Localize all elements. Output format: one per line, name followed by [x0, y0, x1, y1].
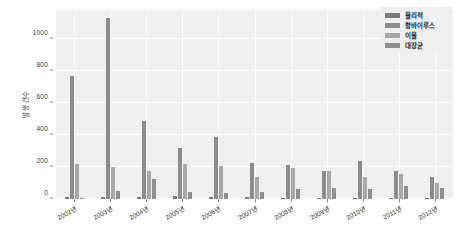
bar: [440, 188, 444, 199]
bar: [116, 191, 120, 199]
bar: [152, 179, 156, 199]
legend-swatch: [385, 13, 400, 18]
x-axis-tick-label: 2007년: [236, 203, 259, 222]
y-axis-tick-mark: [50, 133, 53, 134]
bar: [142, 121, 146, 199]
bar: [147, 171, 151, 199]
legend-swatch: [385, 23, 400, 28]
bar: [178, 148, 182, 199]
x-axis-tick-label: 2012년: [416, 203, 439, 222]
bar-group: [273, 165, 309, 199]
y-axis-tick-label: 0: [44, 189, 48, 196]
bar-group: [381, 171, 417, 200]
bar-group: [309, 171, 345, 200]
x-axis-tick-label: 2003년: [91, 203, 114, 222]
x-axis-tick-label: 2008년: [272, 203, 295, 222]
bar: [399, 174, 403, 199]
legend-swatch: [385, 33, 400, 38]
x-axis-tick-mark: [399, 199, 400, 202]
bar: [286, 165, 290, 199]
x-axis-tick-mark: [74, 199, 75, 202]
x-axis-tick-mark: [182, 199, 183, 202]
x-axis: 2002년2003년2004년2005년2006년2007년2008년2009년…: [56, 199, 453, 233]
legend-label: 이물: [405, 30, 417, 40]
x-axis-tick-label: 2011년: [380, 203, 403, 221]
x-axis-tick-mark: [435, 199, 436, 202]
bar: [368, 189, 372, 199]
legend-item[interactable]: 물리적: [385, 10, 449, 20]
y-axis-tick-mark: [50, 69, 53, 70]
x-axis-tick-mark: [255, 199, 256, 202]
x-axis-tick-label: 2009년: [308, 203, 331, 222]
bar: [327, 171, 331, 199]
legend-item[interactable]: 이물: [385, 30, 449, 40]
y-axis-tick-mark: [50, 165, 53, 166]
bar-group: [164, 148, 200, 199]
legend-label: 대장균: [405, 40, 423, 50]
y-axis-tick-mark: [50, 101, 53, 102]
y-axis-tick-label: 800: [37, 60, 48, 67]
y-axis-tick-mark: [50, 198, 53, 199]
y-axis-tick-label: 600: [37, 92, 48, 99]
bar: [111, 167, 115, 199]
y-axis-tick-label: 1000: [33, 28, 48, 35]
bar: [75, 164, 79, 199]
bar-group: [128, 121, 164, 199]
bar: [363, 177, 367, 199]
legend-label: 항바이루스: [405, 20, 435, 30]
bar: [430, 177, 434, 199]
bar: [404, 186, 408, 199]
bar: [296, 189, 300, 199]
y-axis-tick-label: 200: [37, 156, 48, 163]
x-axis-tick-mark: [363, 199, 364, 202]
x-axis-tick-mark: [110, 199, 111, 202]
legend-item[interactable]: 항바이루스: [385, 20, 449, 30]
x-axis-tick-label: 2005년: [163, 203, 186, 222]
bar-group: [200, 137, 236, 199]
bar: [394, 171, 398, 200]
legend-label: 물리적: [405, 10, 423, 20]
bar: [214, 137, 218, 199]
y-axis-tick-mark: [50, 37, 53, 38]
x-axis-tick-mark: [146, 199, 147, 202]
bar: [106, 18, 110, 199]
bar-group: [417, 177, 453, 199]
bar-group: [236, 163, 272, 199]
bar: [70, 76, 74, 199]
bar: [332, 188, 336, 199]
bar-chart-figure: 02004006008001000 발생 건수 2002년2003년2004년2…: [0, 0, 469, 233]
chart-legend: 물리적항바이루스이물대장균: [381, 7, 451, 53]
x-axis-tick-label: 2004년: [127, 203, 150, 222]
bar: [255, 177, 259, 199]
bar: [291, 168, 295, 199]
legend-swatch: [385, 43, 400, 48]
bar: [188, 192, 192, 199]
legend-item[interactable]: 대장균: [385, 40, 449, 50]
bar-group: [345, 161, 381, 199]
bar: [183, 164, 187, 199]
x-axis-tick-label: 2002년: [55, 203, 78, 222]
y-axis-label: 발생 건수: [20, 90, 30, 117]
bar-group: [56, 76, 92, 199]
y-axis-tick-label: 400: [37, 124, 48, 131]
x-axis-tick-label: 2010년: [344, 203, 367, 222]
bar-group: [92, 18, 128, 199]
bar: [260, 192, 264, 199]
bar: [322, 171, 326, 200]
bar: [250, 163, 254, 199]
bar: [435, 183, 439, 199]
bar: [219, 166, 223, 199]
x-axis-tick-mark: [327, 199, 328, 202]
x-axis-tick-label: 2006년: [199, 203, 222, 222]
bar: [358, 161, 362, 199]
x-axis-tick-mark: [218, 199, 219, 202]
x-axis-tick-mark: [291, 199, 292, 202]
